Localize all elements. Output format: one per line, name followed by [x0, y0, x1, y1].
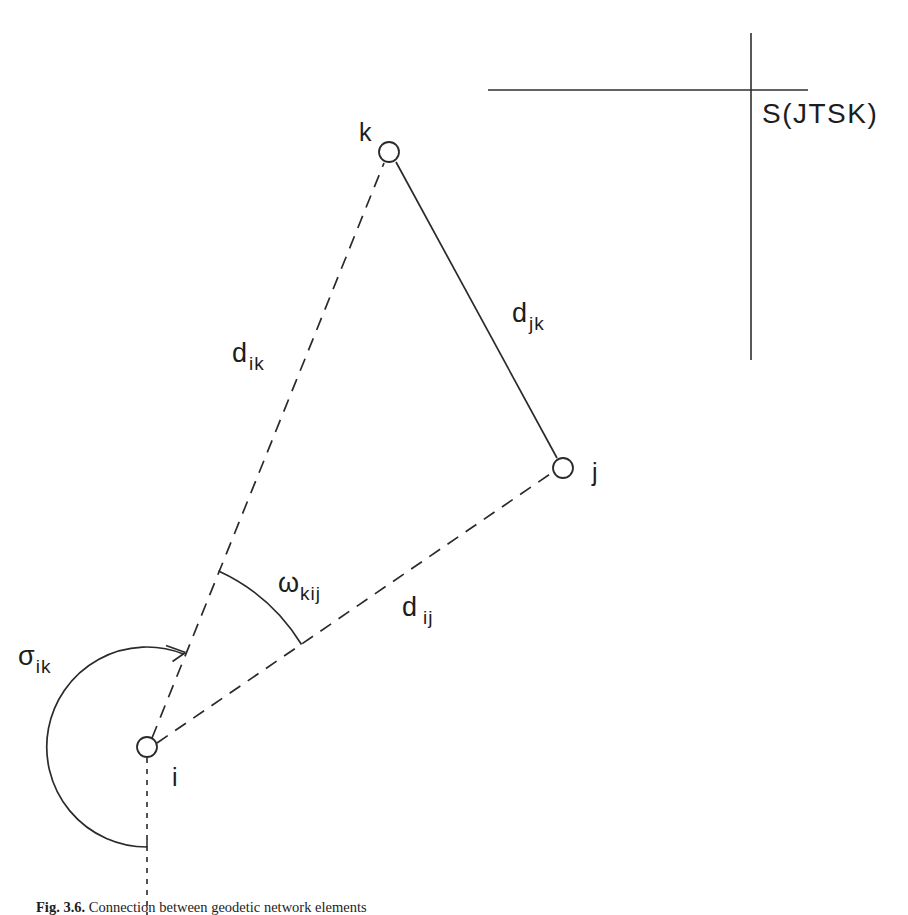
figure-caption-text: Connection between geodetic network elem… [89, 899, 367, 915]
edge-label-d-ij-subscript: ij [423, 607, 433, 628]
diagram-canvas [0, 0, 908, 915]
angle-label-sigma-symbol: σ [18, 641, 35, 671]
edge-label-d-ik: dik [232, 340, 263, 367]
point-label-k: k [359, 120, 372, 145]
axis-system-label: S(JTSK) [762, 100, 878, 128]
point-marker-k[interactable] [379, 142, 399, 162]
figure-caption: Fig. 3.6. Connection between geodetic ne… [36, 898, 876, 915]
edge-label-d-ik-symbol: d [232, 338, 247, 368]
sigma-ik-arc-path [47, 647, 184, 847]
edge-label-d-jk-subscript: jk [529, 313, 545, 334]
angle-arc-sigma-ik [47, 646, 186, 848]
angle-label-sigma-subscript: ik [36, 656, 52, 677]
point-marker-j[interactable] [553, 458, 573, 478]
point-label-j: j [592, 460, 598, 485]
figure-caption-number: Fig. 3.6. [36, 899, 85, 915]
angle-label-omega-kij: ωkij [278, 570, 320, 597]
figure-root: S(JTSK) k j i dik djk dij ωkij σik Fig. … [0, 0, 908, 915]
edge-label-d-ik-subscript: ik [249, 353, 265, 374]
point-label-i: i [172, 765, 178, 790]
edge-label-d-ij: dij [402, 594, 427, 621]
edge-d-ik [152, 163, 384, 738]
angle-label-omega-subscript: kij [300, 583, 321, 604]
angle-label-omega-symbol: ω [278, 568, 299, 598]
point-marker-i[interactable] [137, 737, 157, 757]
edge-label-d-jk: djk [512, 300, 543, 327]
angle-label-sigma-ik: σik [18, 643, 50, 670]
edge-label-d-ij-symbol: d [402, 592, 417, 622]
sigma-ik-arrowhead-icon [166, 646, 186, 662]
edge-d-ij [157, 472, 553, 743]
edge-label-d-jk-symbol: d [512, 298, 527, 328]
network-edges [152, 162, 557, 743]
network-points [137, 142, 573, 757]
